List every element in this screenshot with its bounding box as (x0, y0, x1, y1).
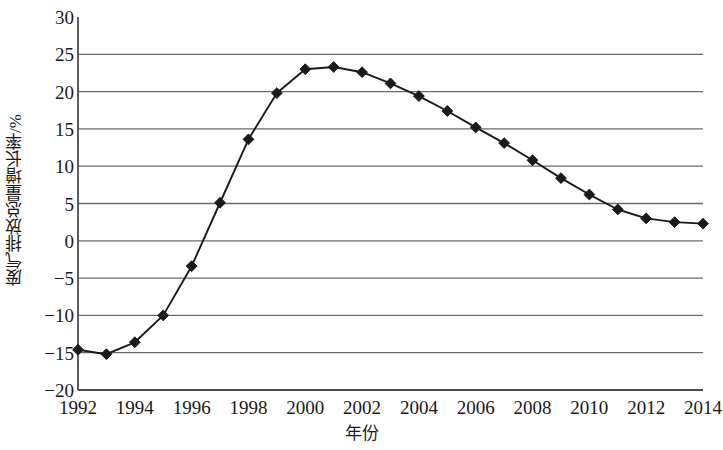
x-tick-label: 2008 (514, 398, 552, 417)
x-axis-tick-labels: 1992199419961998200020022004200620082010… (0, 0, 723, 450)
x-tick-label: 2006 (457, 398, 495, 417)
x-tick-label: 2004 (400, 398, 438, 417)
x-tick-label: 2000 (286, 398, 324, 417)
x-tick-label: 1998 (229, 398, 267, 417)
x-tick-label: 1992 (59, 398, 97, 417)
line-chart: 废气排放总量增长率/% 302520151050−5−10−15−20 1992… (0, 0, 723, 450)
x-tick-label: 2012 (627, 398, 665, 417)
x-tick-label: 2002 (343, 398, 381, 417)
x-tick-label: 2010 (570, 398, 608, 417)
x-tick-label: 1996 (173, 398, 211, 417)
x-axis-title: 年份 (0, 425, 723, 442)
x-tick-label: 2014 (684, 398, 722, 417)
x-tick-label: 1994 (116, 398, 154, 417)
